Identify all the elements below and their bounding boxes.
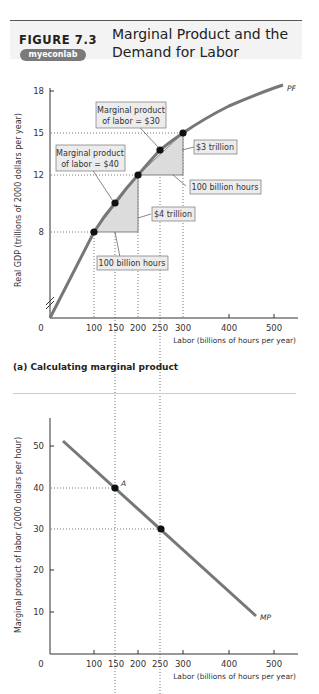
bottom-y-axis-label: Marginal product of labor (2000 dollars … [14,437,23,633]
bottom-x-tick-100: 100 [86,659,102,669]
point-100-8 [90,228,97,235]
bottom-y-tick-10: 10 [33,607,44,617]
mp30-callout: Marginal product of labor = $30 [96,102,166,128]
bottom-y-tick-30: 30 [33,524,44,534]
panel-a-caption: (a) Calculating marginal product [13,362,178,372]
production-function-chart: Real GDP (trillions of 2000 dollars per … [14,84,298,694]
top-x-tick-0: 0 [38,323,43,333]
top-x-tick-250: 250 [152,323,168,333]
svg-text:100 billion hours: 100 billion hours [192,183,259,192]
pf-curve [50,85,283,318]
mp40-callout: Marginal product of labor = $40 [56,145,125,171]
bottom-y-tick-50: 50 [33,441,44,451]
top-y-tick-18: 18 [33,86,44,96]
svg-text:of labor = $40: of labor = $40 [61,160,119,169]
bottom-y-tick-20: 20 [33,565,44,575]
bottom-x-tick-150: 150 [108,659,124,669]
bottom-x-tick-500: 500 [266,659,282,669]
bottom-x-tick-0: 0 [38,659,43,669]
top-y-tick-15: 15 [33,128,44,138]
svg-text:of labor = $30: of labor = $30 [102,117,160,126]
top-x-tick-400: 400 [221,323,237,333]
bottom-x-tick-200: 200 [130,659,146,669]
top-y-tick-8: 8 [39,227,44,237]
point-a [111,484,118,491]
point-300-15 [179,129,186,136]
bottom-x-axis-label: Labor (billions of hours per year) [173,672,296,681]
top-x-tick-300: 300 [175,323,191,333]
top-x-tick-100: 100 [86,323,102,333]
top-x-tick-200: 200 [130,323,146,333]
hours-label-b: 100 billion hours [190,180,261,194]
pf-label: PF [287,84,297,93]
three-trillion-label: $3 trillion [194,140,237,154]
point-250 [156,146,163,153]
point-200-12 [134,171,141,178]
bottom-x-tick-300: 300 [175,659,191,669]
point-250-30 [157,525,164,532]
svg-text:Marginal product: Marginal product [56,149,124,158]
bottom-x-tick-400: 400 [221,659,237,669]
svg-text:$3 trillion: $3 trillion [196,143,234,152]
mp-label: MP [260,613,271,622]
bottom-y-tick-40: 40 [33,483,44,493]
svg-text:Marginal product: Marginal product [97,106,165,115]
svg-text:$4 trillion: $4 trillion [154,210,192,219]
top-y-tick-12: 12 [33,170,44,180]
top-x-axis-label: Labor (billions of hours per year) [173,336,296,345]
figure-charts: Real GDP (trillions of 2000 dollars per … [0,0,319,694]
top-y-axis-label: Real GDP (trillions of 2000 dollars per … [14,113,23,287]
top-x-tick-500: 500 [266,323,282,333]
marginal-product-chart: Marginal product of labor (2000 dollars … [14,418,298,681]
svg-text:100 billion hours: 100 billion hours [99,259,166,268]
hours-label-a: 100 billion hours [97,256,168,270]
panel-divider [13,393,296,394]
point-a-label: A [120,479,126,488]
top-x-tick-150: 150 [108,323,124,333]
four-trillion-label: $4 trillion [152,207,195,221]
bottom-x-tick-250: 250 [152,659,168,669]
